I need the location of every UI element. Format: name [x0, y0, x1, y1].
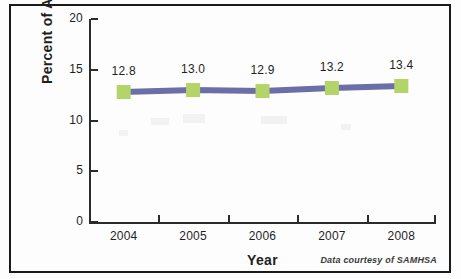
- x-tick-label-2008: 2008: [388, 229, 416, 243]
- data-point-label-2005: 13.0: [181, 62, 205, 76]
- data-point-marker[interactable]: [256, 84, 270, 98]
- plot-area: 05101520 12.813.012.913.213.4 2004200520…: [89, 19, 436, 224]
- data-credit: Data courtesy of SAMHSA: [320, 255, 437, 265]
- data-point-marker[interactable]: [394, 79, 408, 93]
- data-point-label-2006: 12.9: [250, 63, 274, 77]
- x-tick-label-2007: 2007: [318, 229, 346, 243]
- chart-page: Percent of Adults 05101520 12.813.012.91…: [0, 0, 461, 279]
- data-point-label-2004: 12.8: [112, 64, 136, 78]
- x-tick-label-2004: 2004: [110, 229, 138, 243]
- y-tick-label: 5: [76, 163, 83, 177]
- data-point-label-2008: 13.4: [389, 58, 413, 72]
- y-tick-label: 15: [69, 62, 83, 76]
- series-line-layer: [89, 19, 436, 224]
- y-tick-label: 10: [69, 113, 83, 127]
- x-tick-label-2005: 2005: [179, 229, 207, 243]
- data-point-label-2007: 13.2: [320, 60, 344, 74]
- y-tick-label: 0: [76, 214, 83, 228]
- y-tick-label: 20: [69, 11, 83, 25]
- data-point-marker[interactable]: [117, 85, 131, 99]
- data-point-marker[interactable]: [186, 83, 200, 97]
- data-point-marker[interactable]: [325, 81, 339, 95]
- y-axis-title: Percent of Adults: [39, 0, 55, 84]
- x-tick-label-2006: 2006: [249, 229, 277, 243]
- figure-frame: Percent of Adults 05101520 12.813.012.91…: [9, 4, 451, 273]
- y-axis-title-holder: Percent of Adults: [45, 36, 65, 206]
